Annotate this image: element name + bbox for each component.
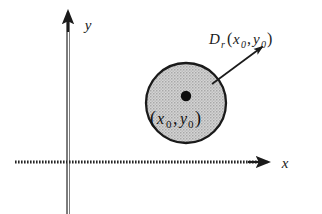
math-figure-disk-diagram: x y ( x 0 , y 0 ) D r [0,0,322,214]
x-axis-label: x [281,155,289,171]
y-axis-label: y [83,17,92,33]
disk-label-open-paren: ( [227,30,232,48]
center-open-paren: ( [150,108,156,129]
center-label-comma: , [173,108,178,128]
disk-label-comma: , [247,30,251,47]
disk-label-arg-y: y [251,31,260,47]
disk-label-arg-x: x [232,31,240,47]
disk-label-subscript-r: r [221,39,225,50]
disk-region [146,63,226,143]
disk-label-D: D [208,31,220,47]
x-axis-group: x [15,155,289,171]
disk-label-arg-x-subscript: 0 [241,39,246,50]
center-label-y: y [178,110,188,128]
center-label-y-subscript: 0 [188,118,194,130]
figure-canvas: x y ( x 0 , y 0 ) D r [0,0,322,214]
leader-line [212,47,262,84]
disk-label: D r ( x 0 , y 0 ) [208,30,272,50]
y-axis-group: y [68,12,92,214]
center-close-paren: ) [195,108,201,129]
center-label-x-subscript: 0 [166,118,172,130]
disk-label-close-paren: ) [267,30,272,48]
disk-label-arg-y-subscript: 0 [261,39,266,50]
center-label-x: x [156,110,164,127]
center-point-dot [181,91,191,101]
